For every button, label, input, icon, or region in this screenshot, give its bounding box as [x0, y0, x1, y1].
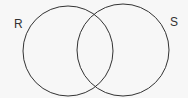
set-r-circle — [23, 6, 113, 96]
set-s-circle — [77, 4, 169, 96]
venn-diagram — [0, 0, 188, 98]
set-r-label: R — [14, 18, 23, 30]
set-s-label: S — [170, 16, 178, 28]
